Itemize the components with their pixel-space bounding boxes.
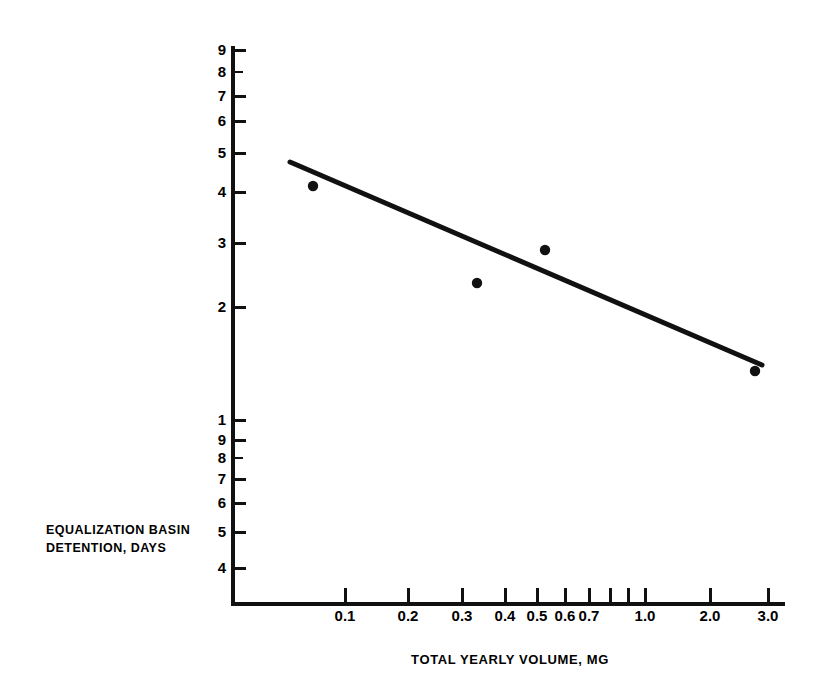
y-axis-line [231,46,235,606]
y-axis-tick-label-text: 8 [200,64,226,79]
x-axis-tick [344,588,347,603]
x-axis-tick [627,588,630,603]
y-axis-tick-label: 4 [196,560,226,576]
x-axis-tick [709,588,712,603]
x-axis-tick [609,588,612,603]
y-axis-tick-label: 9 [196,432,226,448]
x-axis-tick [588,588,591,603]
x-axis-tick [536,588,539,603]
y-axis-tick-label: 1 [196,412,226,428]
x-axis-tick-label-text: 2.0 [682,608,738,623]
y-axis-tick-label: 6 [196,495,226,511]
x-axis-tick-label: 3.0 [740,608,796,628]
y-axis-tick-label-text: 3 [200,235,226,250]
x-axis-tick-label: 1.0 [617,608,673,628]
y-axis-tick [235,502,246,505]
x-axis-tick [564,588,567,603]
y-axis-tick [235,49,246,52]
y-axis-tick-label: 8 [196,64,226,80]
y-axis-tick [235,306,246,309]
y-axis-tick [235,457,243,459]
y-axis-tick [235,478,246,481]
x-axis-tick-label-text: 3.0 [740,608,796,623]
data-point-marker [308,181,318,191]
x-axis-tick-label-text: 1.0 [617,608,673,623]
y-axis-tick-label: 4 [196,184,226,200]
y-axis-tick-label-text: 2 [200,299,226,314]
y-axis-tick-label: 5 [196,145,226,161]
trend-line-segment [290,162,762,365]
y-axis-tick [235,419,246,422]
data-points [308,181,760,376]
y-axis-tick-label-text: 1 [200,412,226,427]
y-axis-tick [235,531,246,534]
x-axis-tick [767,588,770,603]
x-axis-tick-label: 2.0 [682,608,738,628]
data-point-marker [750,366,760,376]
x-axis-tick [407,588,410,603]
y-axis-tick-label: 7 [196,471,226,487]
y-axis-tick [235,439,246,442]
data-point-marker [540,245,550,255]
x-axis-tick-label: 0.1 [317,608,373,628]
y-axis-tick-label: 8 [196,450,226,466]
y-axis-title: EQUALIZATION BASIN DETENTION, DAYS [46,521,216,557]
y-axis-tick-label: 2 [196,299,226,315]
x-axis-tick-label-text: 0.7 [561,608,617,623]
y-axis-tick [235,191,246,194]
y-axis-tick-label-text: 4 [200,560,226,575]
x-axis-title: TOTAL YEARLY VOLUME, MG [330,652,690,667]
y-axis-tick-label: 6 [196,113,226,129]
y-axis-tick [235,95,246,98]
x-axis-line [231,602,785,606]
plot-area [0,0,825,698]
y-axis-tick [235,120,246,123]
x-axis-tick-label-text: 0.1 [317,608,373,623]
y-axis-tick-label-text: 9 [200,42,226,57]
y-axis-tick-label-text: 7 [200,88,226,103]
x-axis-tick-label-text: 0.2 [380,608,436,623]
y-axis-tick [235,71,243,73]
y-axis-tick-label: 9 [196,42,226,58]
x-axis-tick [644,588,647,603]
y-axis-tick-label: 7 [196,88,226,104]
y-axis-tick-label-text: 6 [200,113,226,128]
y-axis-title-line-1: EQUALIZATION BASIN [46,521,216,539]
y-axis-tick-label-text: 4 [200,184,226,199]
x-axis-tick [504,588,507,603]
trend-line [290,162,762,365]
y-axis-tick [235,567,246,570]
y-axis-tick-label-text: 7 [200,471,226,486]
y-axis-tick-label-text: 6 [200,495,226,510]
data-point-marker [472,278,482,288]
y-axis-title-line-2: DETENTION, DAYS [46,539,216,557]
y-axis-tick [235,242,246,245]
y-axis-tick [235,152,246,155]
x-axis-tick-label: 0.2 [380,608,436,628]
x-axis-tick-label: 0.7 [561,608,617,628]
y-axis-tick-label: 3 [196,235,226,251]
chart-figure: 987654321987654 0.10.20.30.40.50.60.71.0… [0,0,825,698]
y-axis-tick-label-text: 5 [200,145,226,160]
y-axis-tick-label-text: 8 [200,450,226,465]
y-axis-tick-label-text: 9 [200,432,226,447]
x-axis-tick [461,588,464,603]
